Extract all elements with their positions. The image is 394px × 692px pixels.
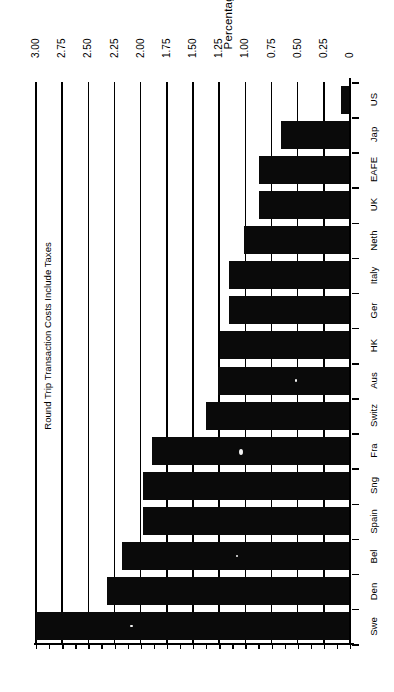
category-tick <box>352 223 359 225</box>
category-label-swe: Swe <box>367 609 380 643</box>
table-row[interactable] <box>0 296 394 324</box>
minor-tick <box>36 643 37 649</box>
value-tick-label: 2.75 <box>56 24 68 59</box>
value-tick-label: 2.50 <box>82 24 94 59</box>
minor-tick <box>75 643 76 649</box>
value-tick-label: 1.75 <box>161 24 173 59</box>
table-row[interactable] <box>0 191 394 219</box>
bar[interactable] <box>244 226 350 254</box>
minor-tick <box>62 643 63 649</box>
value-tick-label: 2.25 <box>109 24 121 59</box>
bar[interactable] <box>143 472 350 500</box>
category-label-den: Den <box>367 574 380 608</box>
category-tick <box>352 187 359 189</box>
category-tick <box>352 468 359 470</box>
category-label-sng: Sng <box>367 469 380 503</box>
bottom-axis-spine <box>34 643 354 650</box>
bar[interactable] <box>220 331 350 359</box>
category-tick-item: Jap <box>352 117 394 152</box>
category-label-spain: Spain <box>367 504 380 538</box>
value-tick-label: 0.50 <box>292 24 304 59</box>
bar-chart-figure: Percentage Round Trip Transaction Costs … <box>0 0 394 692</box>
minor-tick <box>298 643 299 649</box>
bar[interactable] <box>281 121 350 149</box>
table-row[interactable] <box>0 472 394 500</box>
value-tick-label: 1.00 <box>239 24 251 59</box>
category-tick-item: Aus <box>352 363 394 398</box>
bar[interactable] <box>107 577 350 605</box>
table-row[interactable] <box>0 261 394 289</box>
category-tick-item: Italy <box>352 258 394 293</box>
category-tick <box>352 117 359 119</box>
minor-tick <box>193 643 194 649</box>
category-tick <box>352 398 359 400</box>
category-tick-item: Neth <box>352 223 394 258</box>
minor-tick <box>219 643 220 649</box>
category-label-us: US <box>367 83 380 117</box>
category-tick-item: UK <box>352 187 394 222</box>
minor-tick <box>49 643 50 649</box>
minor-tick <box>232 643 233 649</box>
minor-tick <box>88 643 89 649</box>
bar[interactable] <box>36 612 350 640</box>
bar[interactable] <box>259 156 350 184</box>
category-label-italy: Italy <box>367 258 380 292</box>
minor-tick <box>180 643 181 649</box>
bar[interactable] <box>229 261 350 289</box>
bar[interactable] <box>143 507 350 535</box>
category-label-ger: Ger <box>367 293 380 327</box>
table-row[interactable] <box>0 156 394 184</box>
category-tick-item: Bel <box>352 539 394 574</box>
bar[interactable] <box>206 402 350 430</box>
category-tick <box>352 433 359 435</box>
table-row[interactable] <box>0 86 394 114</box>
minor-tick <box>101 643 102 649</box>
table-row[interactable] <box>0 612 394 640</box>
category-tick-item: Sng <box>352 468 394 503</box>
table-row[interactable] <box>0 437 394 465</box>
category-label-uk: UK <box>367 188 380 222</box>
table-row[interactable] <box>0 577 394 605</box>
table-row[interactable] <box>0 121 394 149</box>
minor-tick <box>324 643 325 649</box>
category-tick-item: Fra <box>352 433 394 468</box>
category-tick-item: EAFE <box>352 152 394 187</box>
minor-tick <box>350 643 351 649</box>
category-axis: USJapEAFEUKNethItalyGerHKAusSwitzFraSngS… <box>352 82 394 644</box>
table-row[interactable] <box>0 331 394 359</box>
value-tick-label: 0 <box>344 24 356 59</box>
plot-area <box>0 82 394 644</box>
table-row[interactable] <box>0 226 394 254</box>
bar[interactable] <box>218 367 350 395</box>
category-tick-item: Switz <box>352 398 394 433</box>
table-row[interactable] <box>0 367 394 395</box>
category-label-eafe: EAFE <box>367 153 380 187</box>
bar[interactable] <box>259 191 350 219</box>
category-label-aus: Aus <box>367 364 380 398</box>
category-label-fra: Fra <box>367 434 380 468</box>
bar[interactable] <box>229 296 350 324</box>
category-tick <box>352 152 359 154</box>
category-label-neth: Neth <box>367 223 380 257</box>
value-tick-label: 1.25 <box>213 24 225 59</box>
category-tick <box>352 504 359 506</box>
category-tick <box>352 293 359 295</box>
minor-tick <box>115 643 116 649</box>
category-label-bel: Bel <box>367 539 380 573</box>
category-tick <box>352 539 359 541</box>
minor-tick <box>141 643 142 649</box>
minor-tick <box>337 643 338 649</box>
category-tick <box>352 82 359 84</box>
minor-tick <box>206 643 207 649</box>
category-tick-item: Spain <box>352 504 394 539</box>
category-label-hk: HK <box>367 328 380 362</box>
category-tick <box>352 328 359 330</box>
value-axis-tick-labels: 3.002.752.502.252.001.751.501.251.000.75… <box>0 36 394 68</box>
minor-tick <box>245 643 246 649</box>
table-row[interactable] <box>0 542 394 570</box>
table-row[interactable] <box>0 507 394 535</box>
bar[interactable] <box>152 437 350 465</box>
table-row[interactable] <box>0 402 394 430</box>
minor-tick <box>311 643 312 649</box>
value-tick-label: 3.00 <box>30 24 42 59</box>
